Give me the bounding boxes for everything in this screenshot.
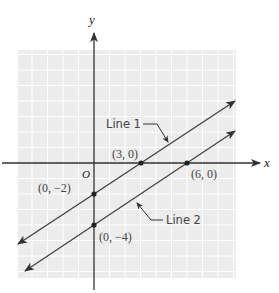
point-0-minus2 xyxy=(91,191,96,196)
point-6-0 xyxy=(184,160,189,165)
point-label-0-minus4: (0, −4) xyxy=(99,230,132,244)
point-label-0-minus2: (0, −2) xyxy=(38,181,71,195)
point-label-6-0: (6, 0) xyxy=(191,167,217,181)
line-2-label: Line 2 xyxy=(166,213,201,227)
point-0-minus4 xyxy=(91,222,96,227)
point-3-0 xyxy=(138,160,143,165)
coordinate-plane: x y O (3, 0) (6, 0) (0, −2) (0, −4) Line… xyxy=(0,0,279,293)
x-axis-label: x xyxy=(263,155,270,170)
line-1-label: Line 1 xyxy=(106,117,141,131)
point-label-3-0: (3, 0) xyxy=(112,147,138,161)
origin-label: O xyxy=(82,168,90,180)
y-axis-label: y xyxy=(87,12,95,27)
